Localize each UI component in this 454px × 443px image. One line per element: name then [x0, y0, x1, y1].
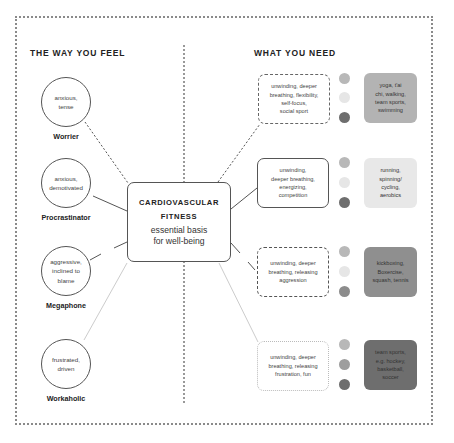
- need-text: breathing, flexibility,: [270, 92, 319, 98]
- center-subtitle-line1: essential basis: [128, 225, 230, 236]
- need-text: energizing,: [279, 184, 306, 190]
- activity-text: chi, walking,: [375, 91, 405, 97]
- activity-text: team sports,: [375, 99, 406, 105]
- central-concept-box: CARDIOVASCULAR FITNESS essential basis f…: [127, 182, 231, 262]
- intensity-dot: [339, 92, 350, 103]
- activity-box-3: kickboxing,Boxercise,squash, tennis: [364, 247, 417, 297]
- need-text: breathing, releasing: [268, 363, 317, 369]
- activity-text: e.g. hockey,: [376, 358, 406, 364]
- activity-text: squash, tennis: [372, 277, 408, 283]
- need-box-4: unwinding, deeperbreathing, releasingfru…: [257, 341, 329, 391]
- need-text: unwinding,: [280, 167, 307, 173]
- feeling-text: aggressive,: [50, 258, 82, 265]
- need-text: frustration, fun: [275, 371, 311, 377]
- need-text: unwinding, deeper: [271, 83, 317, 89]
- intensity-dot: [339, 112, 350, 123]
- intensity-dot: [339, 157, 350, 168]
- intensity-dot: [339, 177, 350, 188]
- activity-text: yoga, t'ai: [379, 82, 401, 88]
- feeling-circle-megaphone: aggressive,inclined toblame: [41, 246, 91, 296]
- feeling-text: inclined to: [52, 267, 80, 274]
- feeling-text: tense: [58, 103, 73, 110]
- intensity-dot: [339, 379, 350, 390]
- persona-label-worrier: Worrier: [26, 132, 106, 141]
- feeling-circle-workaholic: frustrated,driven: [41, 339, 91, 389]
- activity-text: basketball,: [377, 366, 404, 372]
- need-text: aggression: [279, 277, 306, 283]
- feeling-text: anxious,: [54, 175, 77, 182]
- feeling-text: demotivated: [49, 184, 83, 191]
- activity-text: kickboxing,: [377, 260, 405, 266]
- activity-box-2: running,spinning/cycling,aerobics: [364, 158, 417, 208]
- activity-text: soccer: [382, 374, 398, 380]
- feeling-circle-procrastinator: anxious,demotivated: [41, 158, 91, 208]
- intensity-dot: [339, 339, 350, 350]
- activity-text: spinning/: [379, 176, 401, 182]
- center-subtitle-line2: for well-being: [128, 236, 230, 247]
- intensity-dot: [339, 73, 350, 84]
- need-text: unwinding, deeper: [270, 354, 316, 360]
- intensity-dot: [339, 359, 350, 370]
- activity-text: cycling,: [381, 184, 400, 190]
- activity-text: running,: [380, 167, 400, 173]
- need-text: unwinding, deeper: [270, 260, 316, 266]
- persona-label-megaphone: Megaphone: [26, 301, 106, 310]
- activity-box-4: team sports,e.g. hockey,basketball,socce…: [364, 340, 417, 390]
- feeling-text: frustrated,: [52, 356, 80, 363]
- intensity-dot: [339, 246, 350, 257]
- need-text: breathing, releasing: [268, 269, 317, 275]
- need-box-2: unwinding,deeper breathing,energizing,co…: [257, 158, 329, 208]
- intensity-dot: [339, 197, 350, 208]
- activity-text: swimming: [378, 107, 403, 113]
- activity-text: Boxercise,: [377, 269, 403, 275]
- need-box-3: unwinding, deeperbreathing, releasingagg…: [257, 247, 329, 297]
- center-title-line1: CARDIOVASCULAR: [128, 196, 230, 210]
- persona-label-workaholic: Workaholic: [26, 394, 106, 403]
- intensity-dot: [339, 286, 350, 297]
- feeling-text: anxious,: [54, 94, 77, 101]
- persona-label-procrastinator: Procrastinator: [26, 213, 106, 222]
- center-title-line2: FITNESS: [128, 210, 230, 224]
- need-text: self-focus,: [281, 100, 307, 106]
- need-text: social sport: [280, 108, 308, 114]
- feeling-circle-worrier: anxious,tense: [41, 77, 91, 127]
- activity-box-1: yoga, t'aichi, walking,team sports,swimm…: [364, 73, 417, 123]
- activity-text: team sports,: [375, 349, 406, 355]
- need-box-1: unwinding, deeperbreathing, flexibility,…: [258, 74, 330, 124]
- need-text: competition: [279, 192, 308, 198]
- feeling-text: driven: [58, 365, 75, 372]
- activity-text: aerobics: [380, 192, 401, 198]
- intensity-dot: [339, 266, 350, 277]
- feeling-text: blame: [58, 277, 75, 284]
- need-text: deeper breathing,: [271, 176, 315, 182]
